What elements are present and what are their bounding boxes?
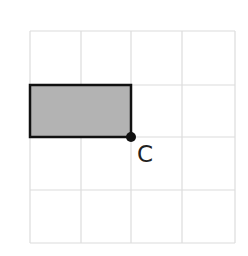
point-c-label: C [137, 141, 153, 167]
shaded-rectangle [30, 85, 131, 137]
point-c-marker [126, 132, 136, 142]
grid-diagram: C [0, 0, 248, 256]
